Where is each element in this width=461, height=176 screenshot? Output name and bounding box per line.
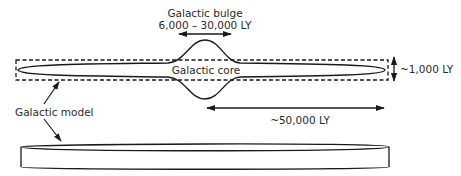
galaxy-diagram: Galactic bulge 6,000 – 30,000 LY Galacti…	[0, 0, 461, 176]
radius-label: ~50,000 LY	[270, 114, 330, 126]
galactic-model-disk	[21, 144, 389, 169]
model-arrow-up	[44, 82, 59, 104]
model-label: Galactic model	[15, 106, 94, 118]
bulge-size-label: 6,000 – 30,000 LY	[159, 19, 253, 31]
bulge-title-label: Galactic bulge	[167, 7, 242, 19]
model-arrow-down	[44, 119, 61, 141]
thickness-label: ~1,000 LY	[400, 63, 454, 75]
core-label: Galactic core	[172, 64, 241, 76]
